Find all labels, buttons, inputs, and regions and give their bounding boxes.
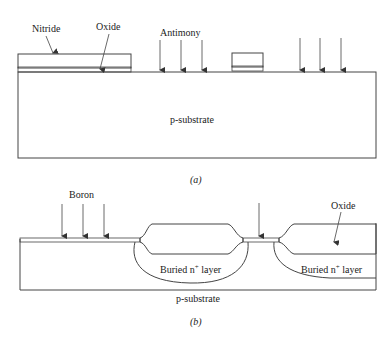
antimony-label: Antimony (160, 27, 201, 38)
figure-b: Boron Oxide Buried n+ layer Buried n+ la… (20, 189, 376, 328)
buried-label-right: Buried n+ layer (301, 263, 363, 275)
substrate-label-b: p-substrate (176, 293, 220, 304)
oxide-pointer-icon-a (100, 34, 109, 69)
nitride-layer-left (18, 54, 131, 68)
oxide-label-a: Oxide (96, 21, 121, 32)
oxide-label-b: Oxide (331, 200, 356, 211)
nitride-pointer-icon (46, 36, 53, 53)
caption-b: (b) (190, 316, 202, 328)
substrate-label-a: p-substrate (170, 114, 214, 125)
oxide-pointer-icon-b (334, 212, 341, 242)
thin-oxide-middle (243, 238, 279, 242)
field-oxide-right (279, 224, 376, 254)
buried-n-layer-left (134, 242, 248, 283)
boron-label: Boron (69, 189, 94, 200)
nitride-label: Nitride (32, 23, 61, 34)
field-oxide-middle (140, 224, 243, 254)
nitride-layer-middle (232, 53, 263, 67)
p-substrate-b (20, 223, 376, 290)
thin-oxide-left (20, 238, 140, 242)
figure-a: Nitride Oxide Antimony p-substrate (a) (18, 21, 376, 186)
caption-a: (a) (190, 174, 202, 186)
process-diagram: Nitride Oxide Antimony p-substrate (a) (0, 0, 392, 340)
buried-label-left: Buried n+ layer (160, 263, 222, 275)
